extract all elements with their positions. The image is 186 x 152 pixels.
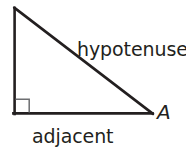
right-triangle-figure: hypotenuse adjacent A	[0, 0, 186, 152]
adjacent-label: adjacent	[32, 127, 113, 146]
vertex-a-label: A	[157, 102, 171, 122]
hypotenuse-label: hypotenuse	[77, 40, 186, 59]
